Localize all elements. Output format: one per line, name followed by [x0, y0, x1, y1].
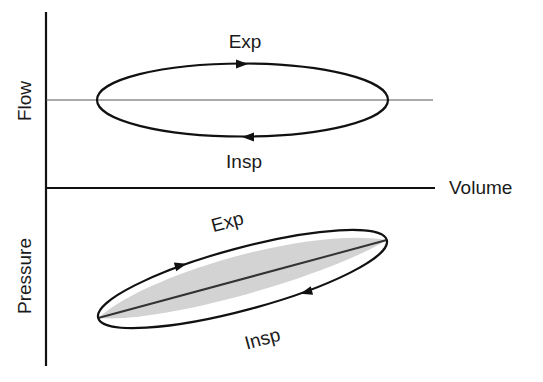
loops-diagram: Flow Pressure Volume Exp Insp Exp Insp — [0, 0, 543, 382]
flow-exp-arrow-icon — [236, 60, 248, 69]
pressure-insp-arrow-icon — [299, 286, 313, 298]
flow-insp-arrow-icon — [242, 133, 254, 142]
pressure-loop-group — [89, 208, 395, 351]
flow-axis-label: Flow — [14, 81, 35, 121]
pressure-insp-label: Insp — [242, 324, 282, 354]
pressure-diagonal-line — [98, 240, 387, 318]
pressure-exp-arrow-icon — [174, 259, 188, 271]
volume-axis-label: Volume — [449, 177, 512, 198]
flow-insp-label: Insp — [226, 151, 262, 172]
pressure-exp-label: Exp — [209, 207, 246, 236]
pressure-axis-label: Pressure — [14, 238, 35, 314]
flow-exp-label: Exp — [229, 31, 262, 52]
